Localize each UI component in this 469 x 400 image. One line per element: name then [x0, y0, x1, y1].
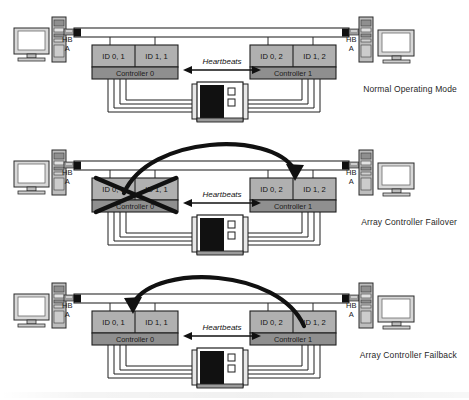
- scan-artifact: [0, 392, 469, 398]
- host-right: [359, 17, 414, 63]
- heartbeat-arrow: [183, 332, 261, 340]
- controller-name-label: Controller 1: [274, 335, 312, 344]
- panel-diagram: ID 0, 1 ID 1, 1 Controller 0 ID 0, 2 ID …: [0, 133, 469, 266]
- host-right: [359, 283, 414, 329]
- hb-label-right: HB A: [346, 36, 356, 53]
- heartbeat-arrow: [183, 66, 261, 74]
- cables-left: [108, 79, 196, 112]
- disk-array-enclosure: [192, 215, 248, 255]
- scsi-bus: [74, 28, 349, 45]
- panel-array-controller-failback: ID 0, 1 ID 1, 1 Controller 0 ID 0, 2 ID …: [0, 266, 469, 399]
- controller-right: ID 0, 2 ID 1, 2 Controller 1: [250, 311, 336, 345]
- controller-left: ID 0, 1 ID 1, 1 Controller 0: [92, 45, 178, 79]
- hb-label-left: HB A: [62, 36, 72, 53]
- hb-bus-text: A: [62, 311, 72, 320]
- hb-bus-text: A: [62, 45, 72, 54]
- host-left: [14, 283, 66, 328]
- id-cell-label: ID 1, 1: [145, 52, 167, 61]
- cables-right: [244, 345, 320, 378]
- cables-right: [244, 212, 320, 245]
- cables-left: [108, 212, 196, 245]
- hb-bus-text: A: [62, 178, 72, 187]
- panel-caption: Array Controller Failback: [360, 350, 457, 360]
- heartbeats-label: Heartbeats: [183, 190, 261, 199]
- id-cell-label: ID 0, 2: [260, 318, 282, 327]
- cables-right: [244, 79, 320, 112]
- panel-diagram: ID 0, 1 ID 1, 1 Controller 0 ID 0, 2 ID …: [0, 0, 469, 133]
- id-cell-label: ID 0, 1: [102, 52, 124, 61]
- controller-name-label: Controller 1: [274, 69, 312, 78]
- id-cell-label: ID 0, 2: [260, 52, 282, 61]
- host-left: [14, 150, 66, 195]
- panel-diagram: ID 0, 1 ID 1, 1 Controller 0 ID 0, 2 ID …: [0, 266, 469, 399]
- hb-bus-text: A: [346, 45, 356, 54]
- controller-right: ID 0, 2 ID 1, 2 Controller 1: [250, 45, 336, 79]
- host-left: [14, 17, 66, 62]
- panel-caption: Normal Operating Mode: [363, 84, 457, 94]
- controller-right: ID 0, 2 ID 1, 2 Controller 1: [250, 178, 336, 212]
- disk-array-enclosure: [192, 348, 248, 388]
- id-cell-label: ID 1, 1: [145, 318, 167, 327]
- controller-name-label: Controller 0: [116, 69, 154, 78]
- controller-name-label: Controller 0: [116, 335, 154, 344]
- id-cell-label: ID 1, 2: [303, 318, 325, 327]
- id-cell-label: ID 0, 1: [102, 318, 124, 327]
- id-cell-label: ID 1, 2: [303, 185, 325, 194]
- heartbeats-label: Heartbeats: [183, 323, 261, 332]
- hb-bus-text: A: [346, 178, 356, 187]
- hb-label-right: HB A: [346, 169, 356, 186]
- hb-label-left: HB A: [62, 302, 72, 319]
- controller-left: ID 0, 1 ID 1, 1 Controller 0: [92, 311, 178, 345]
- hb-label-right: HB A: [346, 302, 356, 319]
- controller-name-label: Controller 1: [274, 202, 312, 211]
- panel-normal-operating-mode: ID 0, 1 ID 1, 1 Controller 0 ID 0, 2 ID …: [0, 0, 469, 133]
- id-cell-label: ID 0, 2: [260, 185, 282, 194]
- hb-bus-text: A: [346, 311, 356, 320]
- panel-caption: Array Controller Failover: [361, 217, 457, 227]
- heartbeats-label: Heartbeats: [183, 57, 261, 66]
- cables-left: [108, 345, 196, 378]
- panel-array-controller-failover: ID 0, 1 ID 1, 1 Controller 0 ID 0, 2 ID …: [0, 133, 469, 266]
- scsi-bus: [74, 161, 349, 178]
- id-cell-label: ID 1, 2: [303, 52, 325, 61]
- hb-label-left: HB A: [62, 169, 72, 186]
- host-right: [359, 150, 414, 196]
- heartbeat-arrow: [183, 199, 261, 207]
- scsi-bus: [74, 294, 349, 311]
- disk-array-enclosure: [192, 82, 248, 122]
